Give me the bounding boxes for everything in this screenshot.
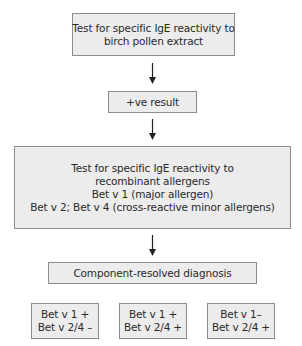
outcome-box-2: Bet v 1 + Bet v 2/4 + <box>119 303 187 339</box>
recombinant-test-line-3: Bet v 1 (major allergen) <box>92 188 214 201</box>
arrow-down-icon <box>148 63 157 85</box>
crd-box: Component-resolved diagnosis <box>48 262 257 284</box>
outcome-3-line-1: Bet v 1– <box>220 308 261 321</box>
outcome-3-line-2: Bet v 2/4 + <box>212 321 270 334</box>
initial-test-box: Test for specific IgE reactivity to birc… <box>72 13 235 56</box>
recombinant-test-line-1: Test for specific IgE reactivity to <box>71 162 233 175</box>
crd-label: Component-resolved diagnosis <box>73 267 231 280</box>
arrow-down-icon <box>148 235 157 257</box>
arrow-down-icon <box>148 119 157 141</box>
recombinant-test-line-4: Bet v 2; Bet v 4 (cross-reactive minor a… <box>30 201 275 214</box>
initial-test-line-1: Test for specific IgE reactivity to <box>72 22 234 35</box>
recombinant-test-line-2: recombinant allergens <box>95 175 210 188</box>
initial-test-line-2: birch pollen extract <box>104 35 203 48</box>
outcome-box-1: Bet v 1 + Bet v 2/4 – <box>31 303 99 339</box>
recombinant-test-box: Test for specific IgE reactivity to reco… <box>14 146 291 229</box>
positive-result-box: +ve result <box>108 91 197 113</box>
outcome-1-line-2: Bet v 2/4 – <box>38 321 93 334</box>
outcome-2-line-1: Bet v 1 + <box>129 308 177 321</box>
outcome-1-line-1: Bet v 1 + <box>41 308 89 321</box>
positive-result-label: +ve result <box>126 96 179 109</box>
outcome-box-3: Bet v 1– Bet v 2/4 + <box>207 303 275 339</box>
outcome-2-line-2: Bet v 2/4 + <box>124 321 182 334</box>
